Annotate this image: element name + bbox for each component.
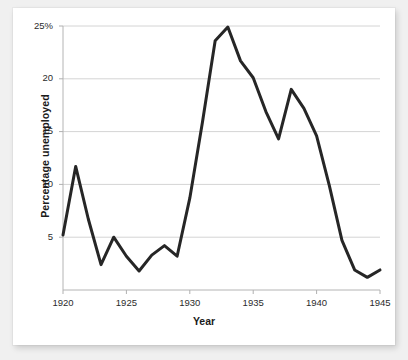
figure-panel: 510152025% 192019251930193519401945 Perc… [13,8,395,345]
unemployment-data-line [63,27,380,277]
y-axis-tick-label: 25% [11,20,53,31]
x-axis-tick-label: 1945 [357,297,403,308]
x-axis-tick-label: 1940 [294,297,340,308]
x-axis-title: Year [13,315,395,327]
x-axis-ticks [63,290,380,294]
x-axis-tick-label: 1920 [40,297,86,308]
line-chart-svg [13,8,395,345]
x-axis-tick-label: 1925 [103,297,149,308]
x-axis-tick-label: 1930 [167,297,213,308]
x-axis-tick-label: 1935 [230,297,276,308]
y-axis-title: Percentage unemployed [39,76,51,236]
chart-plot-area: 510152025% 192019251930193519401945 Perc… [13,8,395,345]
y-axis-ticks [59,26,63,237]
